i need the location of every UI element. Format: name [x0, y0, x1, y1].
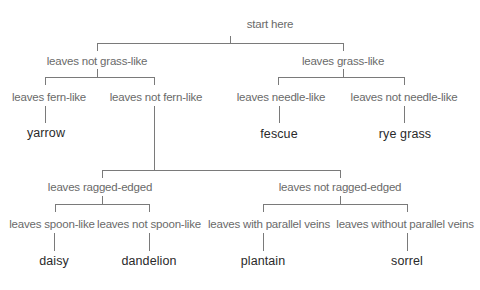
- node-leaves-needle-like: leaves needle-like: [237, 91, 325, 103]
- node-leaves-not-spoon-like: leaves not spoon-like: [97, 218, 201, 230]
- node-leaves-without-parallel-veins: leaves without parallel veins: [336, 218, 473, 230]
- result-dandelion: dandelion: [121, 254, 176, 268]
- connector: [407, 233, 408, 251]
- connector: [154, 77, 155, 85]
- connector: [263, 204, 408, 205]
- connector: [97, 43, 344, 44]
- result-plantain: plantain: [241, 254, 286, 268]
- node-leaves-not-grass-like: leaves not grass-like: [47, 55, 148, 67]
- connector: [263, 233, 264, 251]
- connector: [45, 77, 155, 78]
- node-leaves-not-fern-like: leaves not fern-like: [110, 91, 203, 103]
- connector: [149, 233, 150, 251]
- connector: [279, 106, 280, 123]
- node-leaves-with-parallel-veins: leaves with parallel veins: [208, 218, 330, 230]
- result-yarrow: yarrow: [27, 126, 65, 140]
- result-daisy: daisy: [39, 254, 69, 268]
- connector: [55, 204, 150, 205]
- connector: [404, 106, 405, 123]
- result-fescue: fescue: [260, 127, 297, 141]
- connector: [154, 106, 155, 170]
- node-leaves-fern-like: leaves fern-like: [12, 91, 86, 103]
- connector: [102, 170, 341, 171]
- node-leaves-grass-like: leaves grass-like: [302, 55, 384, 67]
- connector: [45, 77, 46, 85]
- connector: [97, 43, 98, 51]
- connector: [230, 36, 231, 43]
- dichotomous-key-diagram: start here leaves not grass-like leaves …: [0, 0, 480, 290]
- node-leaves-ragged-edged: leaves ragged-edged: [48, 181, 152, 193]
- connector: [97, 69, 98, 77]
- connector: [55, 204, 56, 212]
- connector: [102, 170, 103, 178]
- node-leaves-spoon-like: leaves spoon-like: [9, 218, 94, 230]
- connector: [278, 77, 405, 78]
- connector: [340, 170, 341, 178]
- node-leaves-not-needle-like: leaves not needle-like: [351, 91, 458, 103]
- connector: [54, 233, 55, 251]
- result-rye-grass: rye grass: [379, 127, 431, 141]
- connector: [102, 196, 103, 204]
- connector: [407, 204, 408, 212]
- connector: [149, 204, 150, 212]
- connector: [45, 106, 46, 123]
- connector: [404, 77, 405, 85]
- connector: [343, 43, 344, 51]
- node-leaves-not-ragged-edged: leaves not ragged-edged: [279, 181, 402, 193]
- connector: [263, 204, 264, 212]
- connector: [278, 77, 279, 85]
- connector: [343, 69, 344, 77]
- connector: [340, 196, 341, 204]
- root-node: start here: [247, 18, 294, 30]
- result-sorrel: sorrel: [391, 254, 423, 268]
